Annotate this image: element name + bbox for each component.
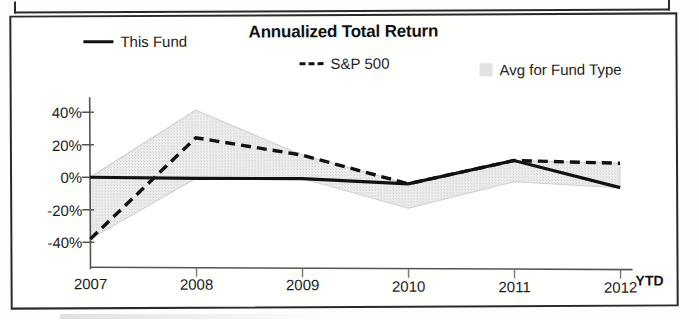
annualized-total-return-card: Annualized Total Return This Fund S&P 50… bbox=[9, 12, 678, 309]
chart-plot-area bbox=[11, 14, 680, 311]
y-axis-label: 0% bbox=[60, 169, 82, 186]
y-axis-label: -40% bbox=[47, 234, 82, 251]
y-axis-label: -20% bbox=[47, 201, 82, 218]
x-axis-label: 2011 bbox=[498, 278, 530, 295]
y-axis-labels: 40%20%0%-20%-40% bbox=[19, 17, 82, 311]
series-band-avg-for-fund-type bbox=[90, 108, 621, 239]
x-axis-label: 2009 bbox=[286, 277, 319, 294]
y-axis-label: 40% bbox=[52, 104, 82, 121]
x-axis-label: 2008 bbox=[180, 276, 213, 293]
y-axis-label: 20% bbox=[52, 136, 82, 153]
x-axis-label: 2012 bbox=[604, 279, 637, 296]
page-bottom-smudge bbox=[60, 314, 440, 319]
y-axis-line bbox=[90, 97, 91, 269]
upper-panel-edge bbox=[14, 0, 670, 13]
x-axis-line bbox=[91, 265, 633, 273]
x-axis-label: 2010 bbox=[392, 277, 425, 294]
x-axis-ytd-suffix: YTD bbox=[636, 272, 664, 288]
x-axis-label: 2007 bbox=[74, 275, 107, 292]
